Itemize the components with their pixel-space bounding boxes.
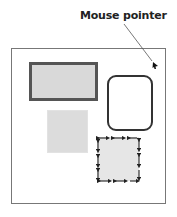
mouse-pointer-icon <box>153 62 159 69</box>
resize-arrows <box>98 138 139 181</box>
leader-line <box>124 24 152 61</box>
diagram-overlay <box>0 0 177 217</box>
